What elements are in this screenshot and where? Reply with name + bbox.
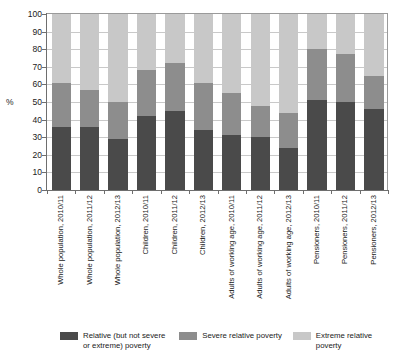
bar-slot: [331, 14, 359, 190]
bar-segment: [194, 83, 213, 131]
legend-label: Extreme relative poverty: [316, 331, 390, 350]
bar-slot: [246, 14, 274, 190]
x-axis-tick-label: Children, 2010/11: [142, 195, 150, 254]
stacked-bar[interactable]: [194, 14, 213, 190]
x-axis-tick-mark: [161, 190, 162, 194]
x-axis-tick-mark: [132, 190, 133, 194]
bar-segment: [279, 148, 298, 190]
legend-item[interactable]: Extreme relative poverty: [293, 331, 390, 350]
bar-segment: [307, 14, 326, 49]
bar-segment: [80, 14, 99, 90]
x-axis-tick-label: Whole population, 2012/13: [114, 195, 122, 285]
stacked-bar[interactable]: [80, 14, 99, 190]
bar-segment: [165, 111, 184, 190]
bar-slot: [274, 14, 302, 190]
legend-item[interactable]: Severe relative poverty: [179, 331, 283, 341]
y-axis-tick-label: 100: [18, 10, 42, 19]
bar-segment: [364, 109, 383, 190]
legend-swatch: [60, 332, 78, 340]
bar-slot: [47, 14, 75, 190]
x-axis-tick-mark: [388, 190, 389, 194]
bar-segment: [364, 14, 383, 76]
bar-segment: [194, 130, 213, 190]
x-axis-tick-label: Whole population, 2011/12: [86, 195, 94, 285]
bar-segment: [307, 49, 326, 100]
bar-slot: [132, 14, 160, 190]
x-axis-tick-mark: [189, 190, 190, 194]
bar-segment: [137, 116, 156, 190]
y-axis-tick-label: 0: [18, 186, 42, 195]
stacked-bar[interactable]: [108, 14, 127, 190]
stacked-bar[interactable]: [336, 14, 355, 190]
y-axis-tick-mark: [42, 172, 47, 173]
bar-segment: [279, 14, 298, 113]
x-axis-tick-mark: [75, 190, 76, 194]
bar-segment: [222, 14, 241, 93]
x-axis-tick-mark: [274, 190, 275, 194]
bar-segment: [222, 135, 241, 190]
stacked-bar-chart: 1009080706050403020100 % Whole populatio…: [0, 0, 394, 359]
x-axis-tick-label: Children, 2012/13: [199, 195, 207, 255]
x-axis-tick-mark: [360, 190, 361, 194]
bar-slot: [303, 14, 331, 190]
bar-segment: [251, 14, 270, 106]
bar-segment: [165, 63, 184, 111]
legend-label: Relative (but not severe or extreme) pov…: [83, 331, 169, 350]
x-axis-tick-mark: [303, 190, 304, 194]
bar-segment: [251, 106, 270, 138]
y-axis-tick-label: 90: [18, 27, 42, 36]
x-axis-label-slot: Adults of working age, 2011/12: [246, 195, 274, 313]
stacked-bar[interactable]: [307, 14, 326, 190]
x-axis-tick-label: Pensioners, 2011/12: [341, 195, 349, 264]
bar-segment: [52, 83, 71, 127]
bar-segment: [108, 102, 127, 139]
x-axis-label-slot: Pensioners, 2012/13: [360, 195, 388, 313]
bar-segment: [194, 14, 213, 83]
bar-segment: [137, 70, 156, 116]
bar-segment: [137, 14, 156, 70]
y-axis-tick-mark: [42, 190, 47, 191]
x-axis-tick-mark: [104, 190, 105, 194]
stacked-bar[interactable]: [52, 14, 71, 190]
bar-segment: [307, 100, 326, 190]
stacked-bar[interactable]: [137, 14, 156, 190]
bar-slot: [104, 14, 132, 190]
stacked-bar[interactable]: [251, 14, 270, 190]
x-axis-tick-label: Children, 2011/12: [171, 195, 179, 254]
bar-segment: [80, 127, 99, 190]
bar-series-container: [47, 14, 388, 190]
y-axis-tick-mark: [42, 102, 47, 103]
x-axis-label-slot: Children, 2012/13: [189, 195, 217, 313]
stacked-bar[interactable]: [165, 14, 184, 190]
y-axis-tick-label: 30: [18, 133, 42, 142]
y-axis-tick-label: 10: [18, 168, 42, 177]
x-axis-tick-mark: [47, 190, 48, 194]
x-axis-label-slot: Pensioners, 2011/12: [331, 195, 359, 313]
bar-segment: [80, 90, 99, 127]
y-axis-tick-mark: [42, 84, 47, 85]
x-axis-tick-label: Adults of working age, 2010/11: [228, 195, 236, 299]
x-axis-label-slot: Children, 2010/11: [132, 195, 160, 313]
x-axis-labels: Whole population, 2010/11Whole populatio…: [47, 195, 388, 313]
chart-legend: Relative (but not severe or extreme) pov…: [60, 331, 390, 357]
stacked-bar[interactable]: [279, 14, 298, 190]
stacked-bar[interactable]: [222, 14, 241, 190]
bar-segment: [165, 14, 184, 63]
legend-swatch: [293, 332, 311, 340]
bar-segment: [279, 113, 298, 148]
y-axis-labels: 1009080706050403020100: [12, 0, 42, 359]
bar-segment: [52, 127, 71, 190]
y-axis-tick-mark: [42, 14, 47, 15]
y-axis-tick-mark: [42, 120, 47, 121]
legend-label: Severe relative poverty: [202, 331, 282, 341]
x-axis-tick-label: Whole population, 2010/11: [57, 195, 65, 285]
legend-item[interactable]: Relative (but not severe or extreme) pov…: [60, 331, 169, 350]
bar-segment: [52, 14, 71, 83]
x-axis-label-slot: Whole population, 2012/13: [104, 195, 132, 313]
bar-segment: [108, 139, 127, 190]
bar-segment: [336, 14, 355, 54]
bar-segment: [251, 137, 270, 190]
stacked-bar[interactable]: [364, 14, 383, 190]
bar-slot: [75, 14, 103, 190]
y-axis-tick-mark: [42, 155, 47, 156]
